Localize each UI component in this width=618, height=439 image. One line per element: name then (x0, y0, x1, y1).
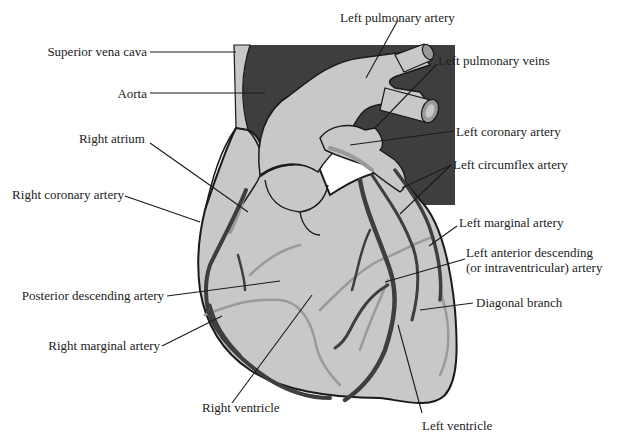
label-left-circumflex-artery: Left circumflex artery (453, 157, 568, 172)
label-right-coronary-artery: Right coronary artery (12, 187, 124, 202)
label-aorta: Aorta (117, 86, 147, 101)
label-left-anterior-descending: Left anterior descending (466, 245, 594, 260)
label-left-ventricle: Left ventricle (422, 418, 493, 433)
label-diagonal-branch: Diagonal branch (476, 295, 563, 310)
heart-illustration: Superior vena cava Aorta Right atrium Ri… (0, 0, 618, 439)
label-right-atrium: Right atrium (79, 131, 145, 146)
label-left-marginal-artery: Left marginal artery (459, 215, 564, 230)
label-left-coronary-artery: Left coronary artery (456, 124, 561, 139)
label-left-anterior-descending-line2: (or intraventricular) artery (466, 260, 603, 275)
heart-diagram: Superior vena cava Aorta Right atrium Ri… (0, 0, 618, 439)
label-right-marginal-artery: Right marginal artery (48, 338, 160, 353)
label-left-pulmonary-veins: Left pulmonary veins (438, 53, 550, 68)
label-left-pulmonary-artery: Left pulmonary artery (340, 10, 455, 25)
label-right-ventricle: Right ventricle (202, 400, 280, 415)
label-superior-vena-cava: Superior vena cava (47, 44, 147, 59)
label-posterior-descending-artery: Posterior descending artery (22, 288, 165, 303)
